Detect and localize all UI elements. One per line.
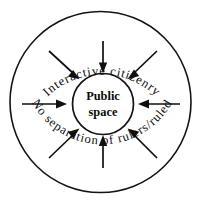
arrowhead-west (56, 100, 67, 109)
center-label-line2: space (89, 105, 118, 119)
diagram-canvas: Public space Interactive citizenry No se… (0, 0, 205, 206)
center-label-line1: Public (86, 89, 120, 103)
concentric-flow-diagram: Public space Interactive citizenry No se… (0, 0, 205, 206)
arrowhead-east (138, 100, 149, 109)
inner-circle (73, 74, 134, 135)
